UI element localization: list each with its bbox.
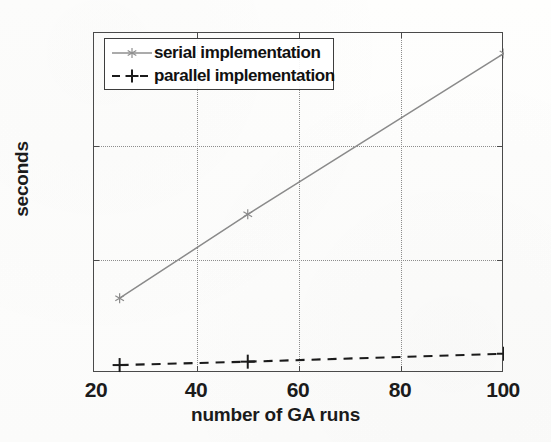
legend-swatch-parallel-dashed-plus xyxy=(110,66,154,86)
parallel-implementation-line xyxy=(120,354,504,365)
series-parallel-implementation xyxy=(113,347,504,372)
chart-figure: 150 100 50 0 20 40 60 80 100 number of G… xyxy=(0,0,551,442)
xtick-label-40: 40 xyxy=(185,378,207,402)
x-axis-label: number of GA runs xyxy=(0,404,551,426)
parallel-implementation-markers xyxy=(113,347,504,372)
xtick-label-20: 20 xyxy=(85,378,107,402)
legend-label-parallel: parallel implementation xyxy=(154,66,335,86)
legend-label-serial: serial implementation xyxy=(154,43,320,63)
legend-entry-serial: serial implementation xyxy=(110,41,329,64)
y-axis-label: seconds xyxy=(11,109,33,249)
serial-implementation-line xyxy=(120,53,504,298)
legend-swatch-serial-solid-asterisk xyxy=(110,43,154,63)
xtick-label-60: 60 xyxy=(287,378,309,402)
legend: serial implementation parallel implement… xyxy=(104,38,334,90)
xtick-label-80: 80 xyxy=(389,378,411,402)
legend-entry-parallel: parallel implementation xyxy=(110,64,329,87)
xtick-label-100: 100 xyxy=(486,378,520,402)
